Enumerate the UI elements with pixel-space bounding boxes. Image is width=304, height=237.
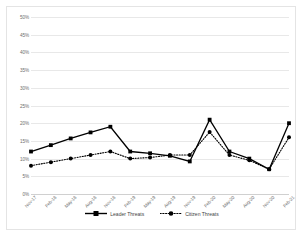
legend-label-leader-threats: Leader Threats <box>110 211 144 217</box>
y-tick-label: 40% <box>20 50 29 55</box>
data-point <box>208 130 212 134</box>
legend-label-citizen-threats: Citizen Threats <box>185 211 219 217</box>
y-tick-label: 0% <box>23 192 29 197</box>
data-point <box>148 151 152 155</box>
data-point <box>188 160 192 164</box>
data-point <box>29 150 33 154</box>
x-tick-label: May-20 <box>222 195 236 209</box>
y-tick-label: 10% <box>20 156 29 161</box>
legend-line-solid-icon <box>85 210 107 217</box>
legend-line-dotted-icon <box>160 210 182 217</box>
chart-container: 50%45%40%35%30%25%20%15%10%5%0% Nov-17Fe… <box>6 6 296 230</box>
x-tick-label: Aug-19 <box>163 195 177 209</box>
data-point <box>89 131 93 135</box>
x-tick-label: Feb-19 <box>123 195 136 208</box>
data-point <box>287 135 291 139</box>
legend-item-leader-threats[interactable]: Leader Threats <box>85 210 144 217</box>
data-point <box>208 118 212 122</box>
x-tick-label: Nov-19 <box>183 195 197 209</box>
data-point <box>148 156 152 160</box>
y-tick-label: 35% <box>20 68 29 73</box>
data-point <box>168 153 172 157</box>
x-tick-label: Feb-18 <box>44 195 57 208</box>
x-tick-label: May-18 <box>63 195 77 209</box>
data-point <box>69 157 73 161</box>
y-tick-label: 50% <box>20 15 29 20</box>
x-tick-label: Aug-18 <box>83 195 97 209</box>
x-tick-label: Nov-17 <box>24 195 38 209</box>
y-tick-label: 5% <box>23 174 29 179</box>
data-point <box>49 143 53 147</box>
data-point <box>69 137 73 141</box>
y-tick-label: 25% <box>20 103 29 108</box>
x-tick-label: Feb-20 <box>203 195 216 208</box>
data-point <box>89 153 93 157</box>
data-point <box>49 160 53 164</box>
data-point <box>247 158 251 162</box>
x-tick-label: May-19 <box>143 195 157 209</box>
data-point <box>267 167 271 171</box>
data-point <box>29 164 33 168</box>
data-point <box>108 150 112 154</box>
chart-legend: Leader Threats Citizen Threats <box>7 210 297 217</box>
y-tick-label: 15% <box>20 138 29 143</box>
legend-item-citizen-threats[interactable]: Citizen Threats <box>160 210 219 217</box>
y-tick-label: 20% <box>20 121 29 126</box>
y-tick-label: 45% <box>20 32 29 37</box>
data-point <box>188 153 192 157</box>
y-axis: 50%45%40%35%30%25%20%15%10%5%0% <box>9 17 29 194</box>
x-tick-label: Aug-20 <box>242 195 256 209</box>
data-point <box>128 150 132 154</box>
x-tick-label: Nov-18 <box>103 195 117 209</box>
plot-area <box>31 17 289 194</box>
data-point <box>227 153 231 157</box>
y-tick-label: 30% <box>20 85 29 90</box>
data-point <box>108 125 112 129</box>
x-tick-label: Nov-20 <box>262 195 276 209</box>
data-point <box>128 157 132 161</box>
series-layer <box>31 17 289 194</box>
x-tick-label: Feb-21 <box>282 195 295 208</box>
data-point <box>287 121 291 125</box>
